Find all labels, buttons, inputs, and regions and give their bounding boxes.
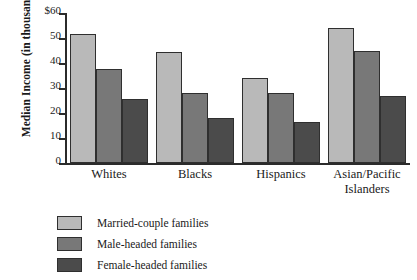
plot-area: 01020304050$60 WhitesBlacksHispanicsAsia… <box>65 13 410 163</box>
y-axis-title: Median Income (in thousands) <box>20 0 32 149</box>
bar[interactable] <box>242 78 268 163</box>
bar-group-bars <box>152 13 238 163</box>
bar[interactable] <box>70 34 96 163</box>
y-tick-label: 20 <box>50 105 61 116</box>
bar[interactable] <box>96 69 122 163</box>
bar[interactable] <box>182 93 208 163</box>
bar[interactable] <box>380 96 406 164</box>
y-tick-label: $60 <box>45 5 62 16</box>
legend-swatch <box>57 258 82 272</box>
legend-item[interactable]: Female-headed families <box>57 254 208 275</box>
bar-group: Blacks <box>152 13 238 163</box>
legend-swatch <box>57 216 82 230</box>
bar-group: Asian/PacificIslanders <box>324 13 410 163</box>
y-tick-label: 40 <box>50 55 61 66</box>
bar[interactable] <box>294 122 320 163</box>
bar-group-bars <box>324 13 410 163</box>
y-tick-label: 0 <box>56 155 62 166</box>
legend-item[interactable]: Married-couple families <box>57 212 208 233</box>
legend-swatch <box>57 237 82 251</box>
bar-group: Whites <box>66 13 152 163</box>
bar[interactable] <box>268 93 294 163</box>
y-tick-label: 30 <box>50 80 61 91</box>
bar[interactable] <box>122 99 148 163</box>
x-axis-category-label: Asian/PacificIslanders <box>307 167 417 197</box>
bar[interactable] <box>208 118 234 163</box>
bar-group-bars <box>238 13 324 163</box>
y-tick-label: 10 <box>50 130 61 141</box>
legend-item[interactable]: Male-headed families <box>57 233 208 254</box>
chart-legend: Married-couple familiesMale-headed famil… <box>57 212 208 275</box>
bar[interactable] <box>354 51 380 164</box>
bar[interactable] <box>156 52 182 163</box>
bar-group: Hispanics <box>238 13 324 163</box>
bar[interactable] <box>328 28 354 163</box>
x-axis-line <box>65 163 410 165</box>
bar-chart-figure: Median Income (in thousands) 01020304050… <box>0 0 417 280</box>
legend-label: Female-headed families <box>97 259 207 271</box>
bar-group-bars <box>66 13 152 163</box>
bar-groups: WhitesBlacksHispanicsAsian/PacificIsland… <box>66 13 410 163</box>
y-tick-label: 50 <box>50 30 61 41</box>
legend-label: Male-headed families <box>97 238 197 250</box>
legend-label: Married-couple families <box>97 217 208 229</box>
